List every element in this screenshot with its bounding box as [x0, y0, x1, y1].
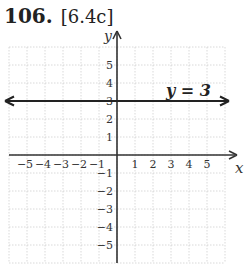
svg-text:−3: −3: [53, 158, 69, 171]
svg-text:2: 2: [150, 158, 157, 171]
svg-text:−5: −5: [97, 239, 113, 252]
svg-text:2: 2: [106, 113, 113, 126]
y-axis-label: y: [103, 28, 113, 44]
svg-text:5: 5: [204, 158, 211, 171]
svg-text:1: 1: [132, 158, 139, 171]
svg-text:4: 4: [186, 158, 193, 171]
line-label: y = 3: [165, 81, 211, 100]
svg-text:4: 4: [106, 77, 113, 90]
axes: xy: [9, 28, 244, 263]
x-axis-label: x: [235, 159, 244, 177]
svg-text:−2: −2: [71, 158, 87, 171]
svg-text:−5: −5: [17, 158, 33, 171]
svg-text:1: 1: [106, 131, 113, 144]
svg-text:−4: −4: [97, 221, 113, 234]
svg-text:−3: −3: [97, 203, 113, 216]
svg-text:−2: −2: [97, 185, 113, 198]
svg-text:−4: −4: [35, 158, 51, 171]
svg-text:5: 5: [106, 59, 113, 72]
svg-text:3: 3: [168, 158, 175, 171]
svg-text:−1: −1: [97, 167, 113, 180]
coordinate-graph: xy −5−4−3−2−11234554321−1−2−3−4−5 y = 3: [0, 0, 246, 273]
